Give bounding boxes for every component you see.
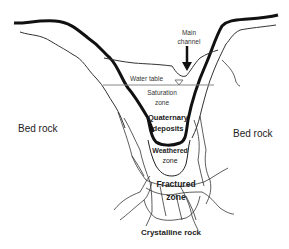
weathered-zone-label: Weathered zone — [151, 147, 189, 164]
weathered-line1: Weathered — [151, 147, 189, 154]
bedrock-left-label: Bed rock — [18, 124, 57, 134]
water-table-label: Water table — [130, 76, 163, 83]
saturation-line2: zone — [142, 100, 182, 107]
hydrogeology-diagram: Main channel Water table Saturation zone… — [0, 0, 289, 249]
fractured-line2: zone — [152, 193, 200, 202]
weathered-boundary-left — [20, 32, 125, 128]
main-channel-line2: channel — [177, 39, 201, 46]
main-channel-line1: Main — [177, 30, 201, 37]
fracture-right-upper — [222, 60, 240, 86]
quaternary-deposits-label: Quaternary deposits — [148, 114, 188, 132]
saturation-line1: Saturation — [142, 90, 182, 97]
quaternary-line2: deposits — [148, 125, 188, 133]
weathered-boundary-right — [192, 25, 276, 138]
fractured-zone-label: Fractured zone — [152, 180, 200, 201]
main-channel-label: Main channel — [177, 30, 201, 45]
quaternary-line1: Quaternary — [148, 114, 188, 122]
inverted-triangle-icon — [175, 80, 183, 85]
saturation-zone-label: Saturation zone — [142, 90, 182, 106]
fractured-line1: Fractured — [152, 180, 200, 189]
crystalline-rock-label: Crystalline rock — [141, 229, 201, 237]
weathered-line2: zone — [151, 157, 189, 164]
bedrock-right-label: Bed rock — [233, 129, 272, 139]
